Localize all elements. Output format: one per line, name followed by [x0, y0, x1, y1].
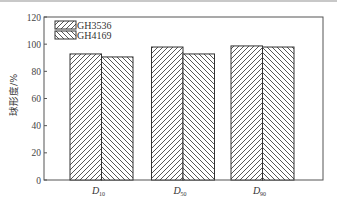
- legend-label-gh4169: GH4169: [77, 30, 111, 41]
- legend-swatch-gh3536: [55, 21, 76, 29]
- bar-gh4169-d90: [263, 47, 295, 180]
- bar-gh3536-d90: [231, 46, 263, 180]
- legend-swatch-gh4169: [55, 31, 76, 39]
- y-tick-label: 0: [36, 176, 41, 186]
- y-tick-label: 20: [32, 148, 42, 158]
- bar-gh3536-d10: [70, 54, 102, 180]
- plot-area: 020406080100120D10D50D90GH3536GH4169: [27, 13, 323, 198]
- bar-gh4169-d50: [183, 54, 215, 180]
- bar-chart: 020406080100120D10D50D90GH3536GH4169: [0, 0, 337, 207]
- x-category-label: D50: [172, 185, 186, 197]
- y-tick-label: 60: [32, 94, 42, 104]
- bar-gh3536-d50: [152, 47, 184, 180]
- y-axis-label: 球形度/%: [6, 86, 20, 116]
- y-tick-label: 40: [32, 121, 42, 131]
- x-category-label: D10: [91, 185, 105, 197]
- x-category-label: D90: [252, 185, 266, 197]
- y-tick-label: 120: [27, 13, 42, 23]
- y-tick-label: 80: [32, 67, 42, 77]
- bar-gh4169-d10: [102, 57, 134, 180]
- y-tick-label: 100: [27, 40, 42, 50]
